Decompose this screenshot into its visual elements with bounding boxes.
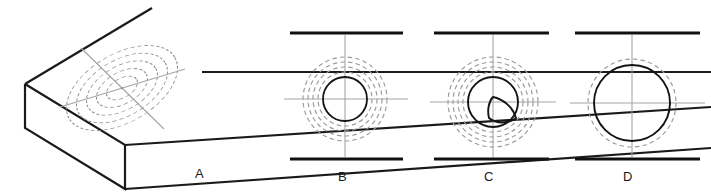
view-label-c: C — [484, 169, 494, 184]
view-d — [570, 33, 705, 159]
block-center-mark — [121, 87, 123, 89]
view-c — [430, 33, 556, 159]
block-top-face — [25, 8, 152, 84]
view-label-a: A — [195, 166, 204, 181]
drawing-surface — [0, 0, 711, 196]
view-label-b: B — [338, 169, 347, 184]
view-label-d: D — [623, 169, 633, 184]
view-d-centerlines — [570, 35, 705, 157]
figure-canvas: A B C D — [0, 0, 711, 196]
view-b — [284, 33, 408, 159]
